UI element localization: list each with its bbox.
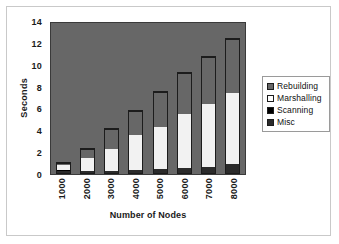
y-axis-tick-label: 12 [32,39,42,49]
x-axis-tick: 3000 [105,178,118,199]
bars-layer [51,23,245,174]
bar-segment-rebuilding [81,149,94,159]
bar-segment-marshalling [202,104,215,167]
bar-segment-misc [105,171,118,173]
bar-segment-marshalling [129,135,142,170]
legend-item-label: Rebuilding [277,81,318,91]
bar-segment-rebuilding [129,111,142,135]
bar-stack[interactable] [104,128,119,174]
legend-item-label: Misc [277,117,295,127]
y-axis-tick-label: 14 [32,17,42,27]
bar-segment-rebuilding [178,73,191,114]
bar-segment-rebuilding [226,39,239,94]
y-axis-tick-label: 2 [37,148,42,158]
y-axis-tick-labels: 02468101214 [0,22,46,175]
x-axis-tick: 7000 [203,178,216,199]
x-axis-tick-label: 4000 [131,178,141,199]
bar-stack[interactable] [56,162,71,174]
legend-swatch-icon [267,107,274,114]
x-axis-tick: 2000 [80,178,93,199]
y-axis-tick-label: 8 [37,83,42,93]
bar-stack[interactable] [177,72,192,174]
bar-segment-misc [154,169,167,173]
x-axis-tick: 5000 [154,178,167,199]
x-axis-tick-labels: 10002000300040005000600070008000 [50,178,246,208]
x-axis-tick: 1000 [56,178,69,199]
bar-segment-misc [226,164,239,173]
x-axis-tick-label: 5000 [155,178,165,199]
bar-segment-misc [129,170,142,173]
bar-stack[interactable] [153,91,168,174]
x-axis-tick-label: 7000 [204,178,214,199]
legend-item-misc[interactable]: Misc [267,116,326,128]
legend-item-marshalling[interactable]: Marshalling [267,92,326,104]
x-axis-tick-label: 6000 [180,178,190,199]
bar-segment-marshalling [178,114,191,168]
y-axis-tick-label: 0 [37,170,42,180]
bar-stack[interactable] [225,38,240,174]
legend-item-rebuilding[interactable]: Rebuilding [267,80,326,92]
x-axis-tick-label: 3000 [106,178,116,199]
chart-figure: Seconds 02468101214 10002000300040005000… [0,0,339,244]
x-axis-tick: 4000 [129,178,142,199]
legend-swatch-icon [267,83,274,90]
legend-swatch-icon [267,119,274,126]
legend-item-label: Scanning [277,105,313,115]
bar-stack[interactable] [128,110,143,174]
bar-segment-marshalling [226,93,239,163]
bar-segment-misc [202,167,215,173]
y-axis-tick-label: 4 [37,126,42,136]
y-axis-tick-label: 10 [32,61,42,71]
plot-area [50,22,246,175]
legend-item-scanning[interactable]: Scanning [267,104,326,116]
x-axis-tick-label: 1000 [57,178,67,199]
bar-stack[interactable] [80,148,95,174]
bar-segment-marshalling [81,158,94,171]
bar-segment-marshalling [154,127,167,170]
bar-segment-rebuilding [154,92,167,127]
x-axis-tick-label: 8000 [229,178,239,199]
bar-stack[interactable] [201,56,216,174]
bar-segment-misc [57,171,70,173]
x-axis-tick: 8000 [227,178,240,199]
bar-segment-marshalling [105,149,118,171]
bar-segment-rebuilding [202,57,215,104]
x-axis-title: Number of Nodes [50,210,246,220]
bar-segment-rebuilding [105,129,118,149]
bar-segment-misc [178,168,191,173]
legend-swatch-icon [267,95,274,102]
x-axis-tick: 6000 [178,178,191,199]
y-axis-tick-label: 6 [37,104,42,114]
bar-segment-misc [81,171,94,173]
legend-item-label: Marshalling [277,93,322,103]
chart-legend: RebuildingMarshallingScanningMisc [262,76,330,132]
x-axis-tick-label: 2000 [82,178,92,199]
